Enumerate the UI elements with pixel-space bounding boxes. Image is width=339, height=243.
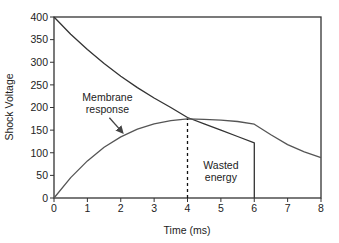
x-tick-label: 1 bbox=[84, 202, 90, 214]
x-tick-label: 3 bbox=[151, 202, 157, 214]
chart: 012345678050100150200250300350400 Membra… bbox=[0, 0, 339, 243]
x-tick-label: 8 bbox=[318, 202, 324, 214]
y-tick-label: 400 bbox=[30, 11, 48, 23]
y-tick-label: 200 bbox=[30, 101, 48, 113]
x-tick-label: 6 bbox=[251, 202, 257, 214]
y-axis-label: Shock Voltage bbox=[3, 73, 15, 140]
axes: 012345678050100150200250300350400 bbox=[30, 11, 324, 214]
annotation-label: Membraneresponse bbox=[82, 91, 132, 116]
x-tick-label: 0 bbox=[51, 202, 57, 214]
y-tick-label: 150 bbox=[30, 124, 48, 136]
x-axis-label: Time (ms) bbox=[164, 224, 211, 236]
annotations: MembraneresponseWastedenergy bbox=[82, 91, 238, 198]
annotation-arrow bbox=[109, 118, 122, 133]
x-tick-label: 7 bbox=[285, 202, 291, 214]
x-tick-label: 4 bbox=[185, 202, 191, 214]
y-tick-label: 300 bbox=[30, 56, 48, 68]
y-tick-label: 250 bbox=[30, 79, 48, 91]
y-tick-label: 350 bbox=[30, 33, 48, 45]
annotation-label: Wastedenergy bbox=[203, 159, 238, 184]
y-tick-label: 0 bbox=[42, 192, 48, 204]
x-tick-label: 5 bbox=[218, 202, 224, 214]
x-tick-label: 2 bbox=[118, 202, 124, 214]
y-tick-label: 50 bbox=[36, 169, 48, 181]
y-tick-label: 100 bbox=[30, 147, 48, 159]
